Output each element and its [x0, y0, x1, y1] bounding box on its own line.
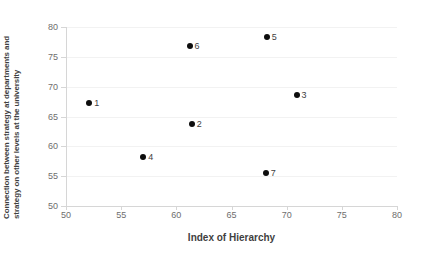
x-tick-label-60: 60 [161, 211, 191, 220]
y-tick-mark-70 [61, 87, 66, 88]
x-tick-mark-70 [287, 206, 288, 210]
x-tick-label-50: 50 [51, 211, 81, 220]
x-tick-label-70: 70 [272, 211, 302, 220]
x-tick-label-55: 55 [106, 211, 136, 220]
x-tick-label-75: 75 [327, 211, 357, 220]
y-tick-mark-80 [61, 27, 66, 28]
scatter-chart: Connection between strategy at departmen… [0, 0, 426, 265]
y-tick-mark-55 [61, 176, 66, 177]
x-tick-mark-80 [397, 206, 398, 210]
x-tick-label-80: 80 [382, 211, 412, 220]
y-tick-mark-60 [61, 146, 66, 147]
x-axis-ticks: 50556065707580 [0, 0, 426, 265]
x-tick-mark-65 [232, 206, 233, 210]
y-tick-mark-65 [61, 117, 66, 118]
x-tick-mark-75 [342, 206, 343, 210]
x-axis-title: Index of Hierarchy [66, 232, 397, 243]
x-tick-mark-55 [121, 206, 122, 210]
x-tick-mark-50 [66, 206, 67, 210]
x-tick-mark-60 [176, 206, 177, 210]
y-tick-mark-75 [61, 57, 66, 58]
x-tick-label-65: 65 [217, 211, 247, 220]
